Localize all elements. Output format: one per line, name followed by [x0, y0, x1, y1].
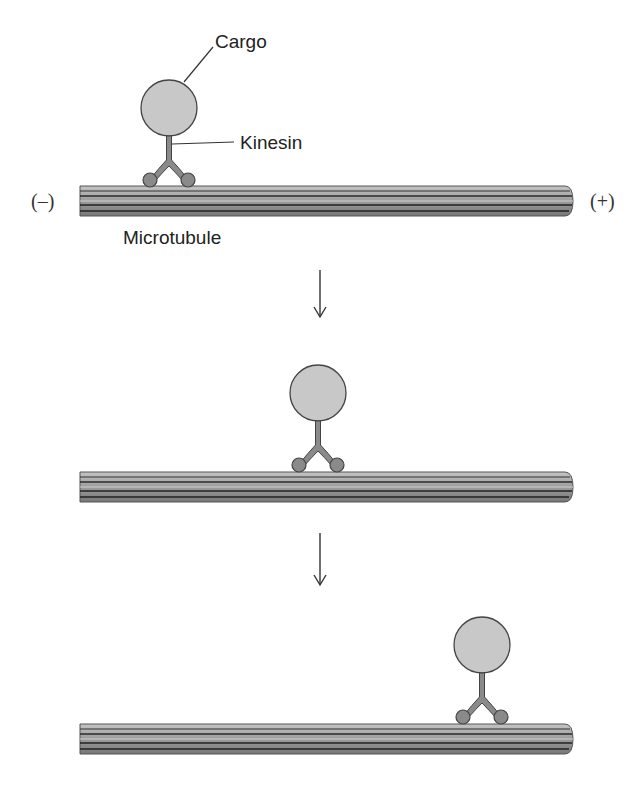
microtubule — [80, 472, 573, 502]
cargo-label: Cargo — [215, 31, 267, 52]
arrow-down-icon — [314, 270, 326, 317]
minus-end-label: (–) — [31, 190, 54, 213]
microtubule-label: Microtubule — [123, 227, 221, 248]
kinesin-with-cargo — [290, 365, 346, 472]
kinesin-label: Kinesin — [240, 132, 302, 153]
cargo-leader-line — [184, 47, 213, 82]
panel-1: Cargo Kinesin Microtubule (–) (+) — [31, 31, 615, 248]
plus-end-label: (+) — [590, 190, 615, 213]
microtubule — [80, 186, 573, 216]
panel-3 — [80, 617, 573, 754]
microtubule — [80, 724, 573, 754]
kinesin-with-cargo — [141, 80, 197, 187]
panel-2 — [80, 365, 573, 502]
kinesin-transport-diagram: Cargo Kinesin Microtubule (–) (+) — [0, 0, 643, 786]
arrow-down-icon — [314, 533, 326, 585]
kinesin-leader-line — [172, 142, 234, 144]
kinesin-with-cargo — [454, 617, 510, 724]
